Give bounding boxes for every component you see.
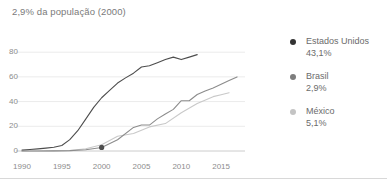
legend-item[interactable]: Brasil2,9% <box>290 71 386 94</box>
legend-dot-icon <box>290 74 296 80</box>
y-axis-tick-label: 40 <box>0 97 18 106</box>
line-chart-svg <box>0 0 250 180</box>
y-axis-tick-label: 20 <box>0 121 18 130</box>
plot-area <box>0 0 250 180</box>
chart-legend: Estados Unidos43,1%Brasil2,9%México5,1% <box>290 36 386 141</box>
series-line-estados-unidos <box>22 55 197 150</box>
x-axis-tick-label: 2015 <box>206 162 236 171</box>
legend-dot-icon <box>290 39 296 45</box>
x-axis-tick-label: 1995 <box>47 162 77 171</box>
x-axis-tick-label: 2010 <box>166 162 196 171</box>
y-axis-tick-label: 80 <box>0 47 18 56</box>
legend-series-name: Estados Unidos <box>306 36 386 47</box>
legend-dot-icon <box>290 109 296 115</box>
legend-series-name: México <box>306 106 386 117</box>
legend-series-value: 2,9% <box>306 82 386 94</box>
x-axis-tick-label: 2005 <box>126 162 156 171</box>
legend-item[interactable]: México5,1% <box>290 106 386 129</box>
legend-series-value: 5,1% <box>306 117 386 129</box>
chart-root: 2,9% da população (2000) 020406080 19901… <box>0 0 387 189</box>
x-axis-tick-label: 1990 <box>7 162 37 171</box>
y-axis-tick-label: 60 <box>0 72 18 81</box>
legend-item[interactable]: Estados Unidos43,1% <box>290 36 386 59</box>
annotation-marker-dot[interactable] <box>99 145 104 150</box>
legend-series-value: 43,1% <box>306 47 386 59</box>
series-line-brasil <box>22 77 237 151</box>
bottom-divider <box>0 178 387 179</box>
x-axis-tick-label: 2000 <box>87 162 117 171</box>
legend-series-name: Brasil <box>306 71 386 82</box>
y-axis-tick-label: 0 <box>0 146 18 155</box>
